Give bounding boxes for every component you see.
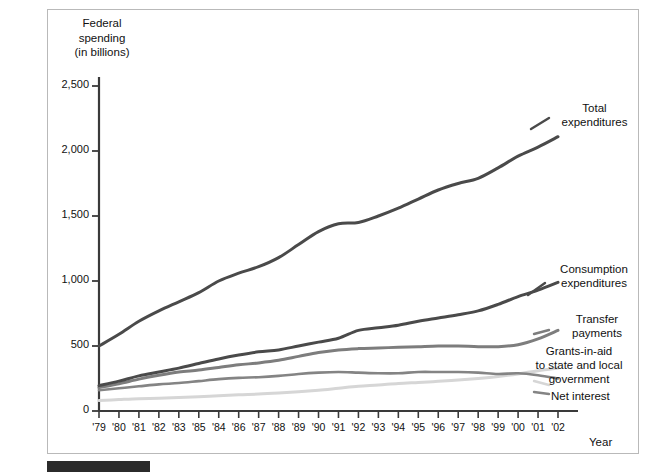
series-line: [99, 282, 558, 385]
series-label-net-interest: Net interest: [551, 389, 610, 403]
series-label-consumption-expenditures: Consumption expenditures: [544, 262, 644, 290]
series-label-consumption-line2: expenditures: [544, 276, 644, 290]
series-label-grants-in-aid: Grants-in-aid to state and local governm…: [515, 344, 643, 386]
series-label-total-expenditures: Total expenditures: [547, 101, 642, 129]
series-label-transfer-line2: payments: [551, 326, 643, 340]
y-tick-label: 0: [37, 403, 89, 415]
series-line: [99, 137, 558, 346]
leader-transfer: [534, 330, 549, 334]
y-tick-label: 2,500: [37, 78, 89, 90]
leader-net-interest: [534, 392, 549, 394]
series-label-grants-line3: government: [515, 372, 643, 386]
y-tick-label: 1,000: [37, 273, 89, 285]
series-label-total-line1: Total: [547, 101, 642, 115]
y-tick-label: 500: [37, 338, 89, 350]
series-label-grants-line2: to state and local: [515, 358, 643, 372]
chart-figure: Federal spending (in billions) Year Tota…: [0, 0, 648, 473]
series-label-transfer-line1: Transfer: [551, 312, 643, 326]
x-tick-label: '02: [543, 421, 573, 433]
series-label-transfer-payments: Transfer payments: [551, 312, 643, 340]
series-label-total-line2: expenditures: [547, 115, 642, 129]
y-tick-label: 1,500: [37, 208, 89, 220]
series-label-grants-line1: Grants-in-aid: [515, 344, 643, 358]
series-label-consumption-line1: Consumption: [544, 262, 644, 276]
y-tick-label: 2,000: [37, 143, 89, 155]
